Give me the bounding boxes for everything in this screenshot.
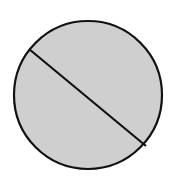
divided-circle-diagram [0,0,172,181]
circle [14,21,162,169]
